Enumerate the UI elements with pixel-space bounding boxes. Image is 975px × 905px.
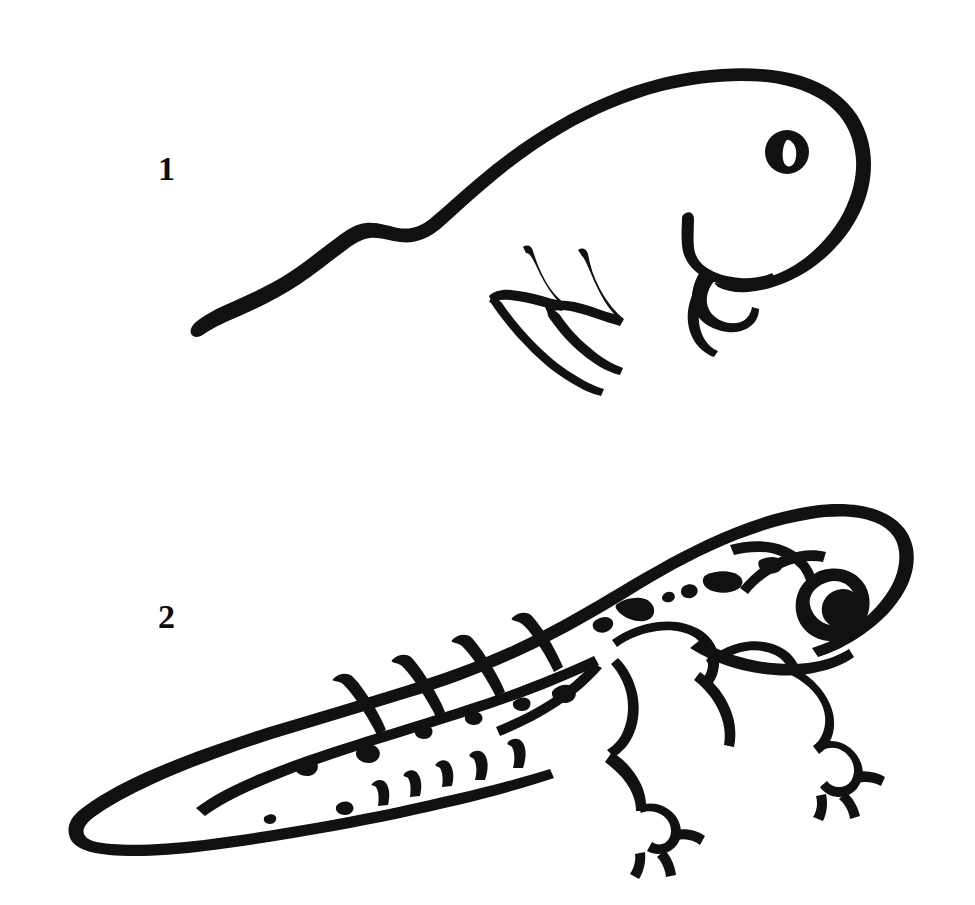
tadpole-eye <box>765 130 809 174</box>
froglet-hind-toe-2 <box>839 792 860 819</box>
froglet-front-toe-2 <box>657 850 676 877</box>
tadpole-head-and-tail-outline <box>191 68 871 337</box>
froglet-tail-stria-5 <box>507 739 525 768</box>
froglet-thigh-contour <box>612 621 719 689</box>
illustration-page: 1 2 <box>0 0 975 905</box>
froglet-front-leg-upper <box>607 658 639 757</box>
froglet-tail-speckle-4 <box>465 712 483 725</box>
froglet-tail-stria-4 <box>469 751 487 780</box>
froglet-brow-line <box>740 550 826 594</box>
tadpole-hind-limb-bud-zigzag-1 <box>489 246 566 311</box>
froglet-group <box>68 504 913 879</box>
froglet-tail-inner-contour <box>196 656 599 816</box>
froglet-outline <box>68 504 913 856</box>
froglet-tail-speckle-5 <box>513 697 531 711</box>
figure-label-1: 1 <box>158 152 175 186</box>
froglet-tail-speckle-3 <box>415 725 433 739</box>
tadpole-front-limb-lower <box>692 271 759 332</box>
froglet-tail-segment-2 <box>392 655 445 717</box>
froglet-hind-leg-shank <box>791 668 834 754</box>
froglet-tail-segment-4 <box>512 613 563 672</box>
froglet-hind-foot <box>818 741 863 797</box>
froglet-tail-stria-2 <box>403 770 421 797</box>
froglet-hind-toe-1 <box>856 771 885 786</box>
froglet-head-outline <box>730 541 817 593</box>
figure-label-2: 2 <box>158 600 175 634</box>
froglet-speckle-1 <box>616 598 655 621</box>
figure-1-tadpole <box>0 0 975 905</box>
froglet-speckle-5 <box>593 617 614 633</box>
tadpole-hind-limb-bud-zigzag-2b <box>548 311 623 375</box>
tadpole-front-limb-bud <box>682 212 776 287</box>
froglet-eye-highlight <box>810 581 853 625</box>
froglet-hind-toe-3 <box>813 794 827 821</box>
froglet-tail-speckle-1 <box>264 814 276 824</box>
tadpole-hind-limb-bud-zigzag-2 <box>545 249 624 326</box>
froglet-tail-speckle-6 <box>552 685 576 703</box>
froglet-speckle-2 <box>662 592 675 603</box>
froglet-hind-leg-upper <box>706 641 800 674</box>
froglet-eye <box>796 568 870 641</box>
tadpole-front-limb-tip <box>688 288 718 357</box>
froglet-front-leg-forearm <box>605 752 646 811</box>
froglet-belly-line <box>496 663 602 736</box>
froglet-front-toe-1 <box>676 829 705 845</box>
froglet-front-limb-near-head <box>694 672 735 747</box>
froglet-tail-speckle-8 <box>356 745 380 763</box>
tadpole-pupil-highlight <box>783 140 797 167</box>
figure-2-froglet <box>0 0 975 905</box>
froglet-tail-speckle-7 <box>295 759 318 776</box>
tadpole-group <box>191 68 871 396</box>
froglet-speckle-6 <box>758 557 782 574</box>
froglet-jaw-line <box>690 640 854 675</box>
froglet-tail-stria-1 <box>371 780 389 806</box>
froglet-speckle-3 <box>681 584 698 598</box>
froglet-tail-stria-3 <box>435 760 453 787</box>
froglet-tail-speckle-2 <box>336 802 354 815</box>
froglet-front-foot <box>638 804 681 854</box>
froglet-front-toe-3 <box>630 852 645 879</box>
froglet-tail-segment-1 <box>333 674 386 735</box>
tadpole-hind-limb-bud-zigzag-1b <box>489 299 604 396</box>
froglet-tail-segment-3 <box>452 635 505 697</box>
froglet-speckle-4 <box>703 571 743 593</box>
